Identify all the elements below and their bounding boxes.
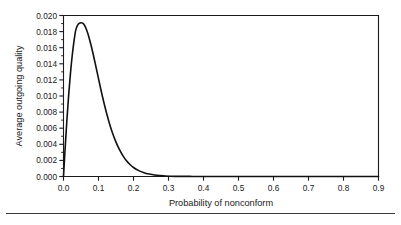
- x-axis-title: Probability of nonconform: [169, 198, 274, 208]
- x-tick-label: 0.0: [58, 183, 70, 193]
- x-tick-label: 0.5: [233, 183, 245, 193]
- aoq-chart-figure: 0.0000.0020.0040.0060.0080.0100.0120.014…: [0, 0, 401, 225]
- y-tick-label: 0.012: [36, 75, 57, 85]
- x-tick-label: 0.2: [128, 183, 140, 193]
- x-tick-label: 0.7: [303, 183, 315, 193]
- y-tick-label: 0.006: [36, 123, 57, 133]
- y-tick-label: 0.010: [36, 91, 57, 101]
- y-axis-title: Average outgoing quality: [14, 45, 24, 146]
- y-tick-label: 0.020: [36, 11, 57, 21]
- y-tick-label: 0.014: [36, 59, 57, 69]
- y-tick-label: 0.002: [36, 155, 57, 165]
- y-tick-label: 0.004: [36, 139, 57, 149]
- y-tick-label: 0.008: [36, 107, 57, 117]
- x-tick-label: 0.8: [338, 183, 350, 193]
- x-tick-label: 0.1: [93, 183, 105, 193]
- footer-divider: [6, 213, 395, 214]
- y-axis-tick-labels: 0.0000.0020.0040.0060.0080.0100.0120.014…: [36, 11, 57, 182]
- x-axis-tick-labels: 0.00.10.20.30.40.50.60.70.80.9: [58, 183, 385, 193]
- x-tick-label: 0.9: [373, 183, 385, 193]
- x-tick-label: 0.6: [268, 183, 280, 193]
- y-tick-label: 0.000: [36, 172, 57, 182]
- aoq-curve: [64, 23, 379, 177]
- y-tick-label: 0.016: [36, 43, 57, 53]
- x-tick-label: 0.4: [198, 183, 210, 193]
- y-tick-label: 0.018: [36, 27, 57, 37]
- plot-frame: [64, 16, 379, 177]
- x-tick-label: 0.3: [163, 183, 175, 193]
- chart-plot-area: 0.0000.0020.0040.0060.0080.0100.0120.014…: [0, 0, 401, 225]
